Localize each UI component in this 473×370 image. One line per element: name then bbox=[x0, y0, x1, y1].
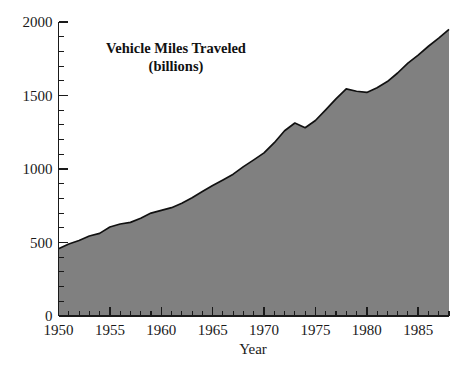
y-tick-label: 2000 bbox=[23, 14, 53, 30]
vehicle-miles-area-chart: 0500100015002000 19501955196019651970197… bbox=[0, 0, 473, 370]
x-tick-label: 1955 bbox=[95, 322, 125, 338]
y-tick-label: 1500 bbox=[23, 88, 53, 104]
x-tick-label: 1985 bbox=[403, 322, 433, 338]
chart-title-line2: (billions) bbox=[149, 58, 204, 75]
chart-figure: 0500100015002000 19501955196019651970197… bbox=[0, 0, 473, 370]
x-tick-label: 1980 bbox=[352, 322, 382, 338]
x-tick-label: 1965 bbox=[198, 322, 228, 338]
y-tick-label: 500 bbox=[30, 235, 53, 251]
x-tick-label: 1960 bbox=[146, 322, 176, 338]
x-axis-title: Year bbox=[239, 341, 267, 357]
y-tick-label: 1000 bbox=[23, 161, 53, 177]
x-tick-label: 1975 bbox=[300, 322, 330, 338]
x-tick-label: 1950 bbox=[44, 322, 74, 338]
chart-title-line1: Vehicle Miles Traveled bbox=[106, 40, 246, 56]
x-tick-label: 1970 bbox=[249, 322, 279, 338]
